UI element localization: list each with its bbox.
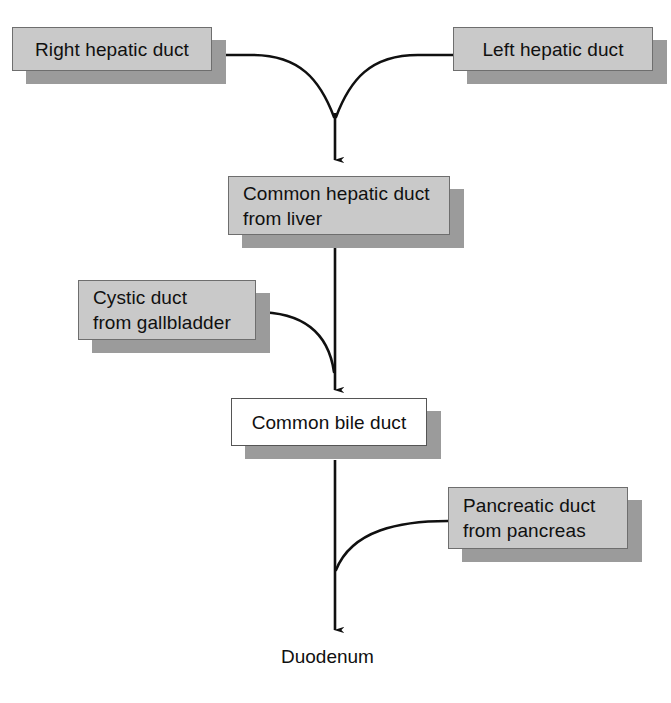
- node-right-hepatic-duct[interactable]: Right hepatic duct: [12, 27, 212, 71]
- connector-pancreatic-to-common-bile: [336, 521, 448, 570]
- node-common-hepatic-duct[interactable]: Common hepatic duct from liver: [228, 176, 450, 235]
- node-label-right-hepatic-duct: Right hepatic duct: [13, 37, 211, 62]
- node-common-bile-duct[interactable]: Common bile duct: [231, 398, 427, 446]
- node-face: Common hepatic duct from liver: [228, 176, 450, 235]
- node-label-pancreatic-duct: Pancreatic duct from pancreas: [449, 493, 627, 543]
- node-face: Common bile duct: [231, 398, 427, 446]
- biliary-flow-diagram: Right hepatic duct Left hepatic duct Com…: [0, 0, 671, 703]
- node-face: Left hepatic duct: [453, 27, 653, 71]
- node-label-common-hepatic-duct: Common hepatic duct from liver: [229, 181, 449, 231]
- node-label-cystic-duct: Cystic duct from gallbladder: [79, 285, 255, 335]
- node-left-hepatic-duct[interactable]: Left hepatic duct: [453, 27, 653, 71]
- node-cystic-duct[interactable]: Cystic duct from gallbladder: [78, 280, 256, 340]
- node-pancreatic-duct[interactable]: Pancreatic duct from pancreas: [448, 487, 628, 549]
- node-label-common-bile-duct: Common bile duct: [232, 410, 426, 435]
- node-face: Cystic duct from gallbladder: [78, 280, 256, 340]
- node-label-left-hepatic-duct: Left hepatic duct: [454, 37, 652, 62]
- connector-left-hepatic-to-junction: [336, 55, 453, 117]
- connector-right-hepatic-to-junction: [212, 55, 334, 117]
- node-face: Pancreatic duct from pancreas: [448, 487, 628, 549]
- node-face: Right hepatic duct: [12, 27, 212, 71]
- node-label-duodenum: Duodenum: [281, 645, 374, 669]
